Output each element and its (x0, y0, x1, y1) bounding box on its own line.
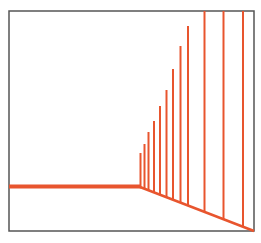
perspective-diagram (0, 0, 261, 243)
diagonal-floor-line (140, 187, 254, 231)
diagram-canvas (0, 0, 261, 243)
frame-border (9, 11, 254, 231)
